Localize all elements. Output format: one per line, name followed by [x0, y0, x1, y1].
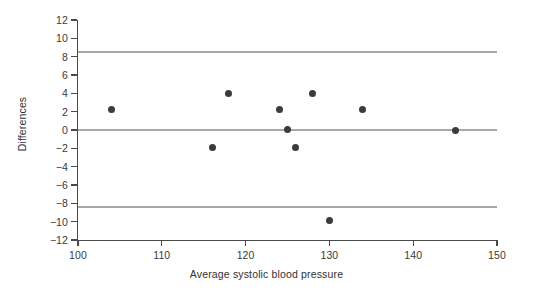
x-axis-title: Average systolic blood pressure — [0, 268, 533, 280]
data-point — [276, 106, 283, 113]
x-axis-tick — [496, 240, 497, 246]
y-axis-title: Differences — [16, 74, 28, 174]
x-axis-tick-label: 110 — [142, 250, 182, 261]
y-axis-tick — [71, 184, 77, 185]
lower-limit-of-agreement — [78, 206, 497, 207]
data-point — [309, 90, 316, 97]
data-point — [209, 144, 216, 151]
y-axis-tick — [71, 19, 77, 20]
y-axis-tick-label: 4 — [38, 88, 68, 99]
data-point — [292, 144, 299, 151]
data-point — [225, 90, 232, 97]
data-point — [359, 106, 366, 113]
x-axis-tick — [161, 240, 162, 246]
x-axis-tick — [329, 240, 330, 246]
y-axis-tick — [71, 38, 77, 39]
data-point — [326, 217, 333, 224]
upper-limit-of-agreement — [78, 51, 497, 52]
x-axis-tick — [245, 240, 246, 246]
y-axis-tick — [71, 129, 77, 130]
y-axis-tick — [71, 93, 77, 94]
y-axis-tick-label: −8 — [38, 198, 68, 209]
y-axis-tick — [71, 239, 77, 240]
y-axis-tick — [71, 56, 77, 57]
y-axis-tick-label: −2 — [38, 143, 68, 154]
y-axis-tick — [71, 148, 77, 149]
y-axis-tick — [71, 111, 77, 112]
y-axis-tick — [71, 74, 77, 75]
y-axis-tick-label: 10 — [38, 33, 68, 44]
y-axis-tick — [71, 166, 77, 167]
x-axis-tick-label: 130 — [309, 250, 349, 261]
x-axis-tick — [413, 240, 414, 246]
plot-area — [78, 20, 497, 240]
y-axis-tick-label: 12 — [38, 15, 68, 26]
y-axis-tick-label: −12 — [38, 235, 68, 246]
y-axis-tick-label: −10 — [38, 217, 68, 228]
y-axis-tick-label: −4 — [38, 162, 68, 173]
x-axis-tick-label: 150 — [477, 250, 517, 261]
y-axis-tick-label: −6 — [38, 180, 68, 191]
x-axis-tick-label: 140 — [393, 250, 433, 261]
y-axis-tick — [71, 221, 77, 222]
y-axis-tick-label: 2 — [38, 107, 68, 118]
y-axis-tick-label: 8 — [38, 52, 68, 63]
bland-altman-chart: Differences Average systolic blood press… — [0, 0, 533, 295]
y-axis-tick-label: 6 — [38, 70, 68, 81]
data-point — [284, 126, 291, 133]
data-point — [452, 127, 459, 134]
y-axis-tick-label: 0 — [38, 125, 68, 136]
y-axis-tick — [71, 203, 77, 204]
x-axis-tick-label: 120 — [226, 250, 266, 261]
x-axis-tick — [77, 240, 78, 246]
x-axis-tick-label: 100 — [58, 250, 98, 261]
data-point — [108, 106, 115, 113]
